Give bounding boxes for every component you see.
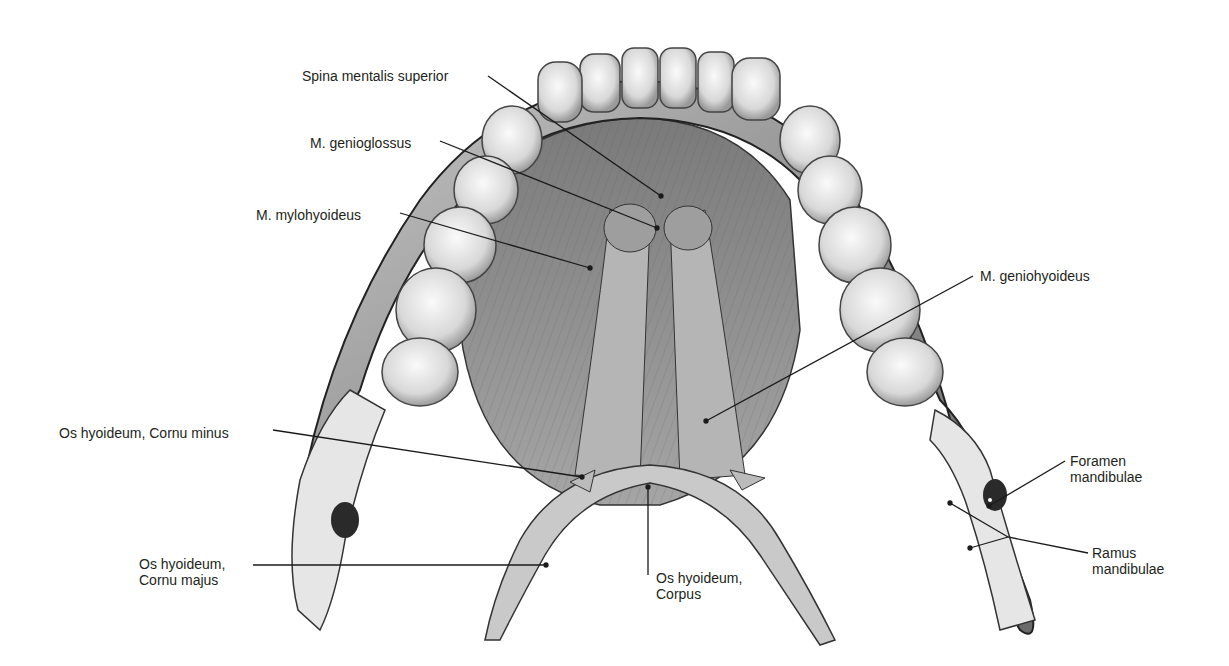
label-foramen-mandibulae: Foramen mandibulae [1070,453,1142,485]
leader-dot [646,485,650,489]
label-m-geniohyoideus: M. geniohyoideus [980,268,1090,284]
leader-dot [580,475,584,479]
leader-dot [987,504,991,508]
label-ramus-mandibulae: Ramus mandibulae [1092,545,1164,577]
label-os-hyoideum-corpus: Os hyoideum, Corpus [656,570,742,602]
label-spina-mentalis-superior: Spina mentalis superior [302,68,448,84]
label-m-mylohyoideus: M. mylohyoideus [256,207,361,223]
leader-dot [544,563,548,567]
leader-dot [948,501,952,505]
label-os-hyoideum-cornu-majus: Os hyoideum, Cornu majus [139,556,225,588]
label-m-genioglossus: M. genioglossus [310,135,411,151]
leader-dot [659,194,663,198]
leader-dot [588,266,592,270]
leader-dot [968,546,972,550]
label-os-hyoideum-cornu-minus: Os hyoideum, Cornu minus [59,425,229,441]
leader-dot [655,226,659,230]
leader-dot [704,419,708,423]
